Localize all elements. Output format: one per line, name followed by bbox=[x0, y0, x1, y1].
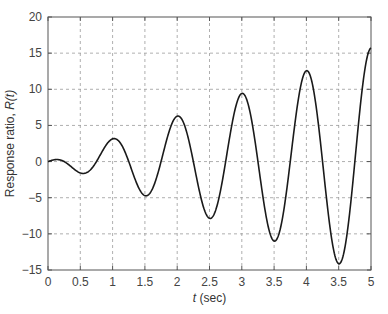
x-tick-label: 3.5 bbox=[330, 275, 347, 289]
x-tick-label: 5 bbox=[368, 275, 375, 289]
y-tick-label: 20 bbox=[29, 10, 43, 24]
response-ratio-chart: 00.511.522.533.543.55 −15−10−505101520 t… bbox=[0, 0, 388, 314]
x-tick-label: 0 bbox=[45, 275, 52, 289]
x-tick-label: 1 bbox=[109, 275, 116, 289]
y-tick-label: −15 bbox=[22, 263, 43, 277]
x-axis-label: t (sec) bbox=[193, 291, 226, 305]
x-tick-label: 4 bbox=[303, 275, 310, 289]
x-tick-label: 0.5 bbox=[72, 275, 89, 289]
y-tick-label: 10 bbox=[29, 82, 43, 96]
y-tick-label: 15 bbox=[29, 46, 43, 60]
x-tick-label: 2 bbox=[174, 275, 181, 289]
x-tick-label: 3.5 bbox=[266, 275, 283, 289]
x-tick-label: 2.5 bbox=[201, 275, 218, 289]
y-axis-label: Response ratio, R(t) bbox=[3, 90, 17, 197]
grid-lines bbox=[48, 17, 371, 270]
y-axis-ticks: −15−10−505101520 bbox=[22, 10, 371, 277]
x-tick-label: 1.5 bbox=[137, 275, 154, 289]
x-axis-ticks: 00.511.522.533.543.55 bbox=[45, 17, 375, 289]
y-tick-label: −5 bbox=[28, 191, 42, 205]
y-axis-label-var: R(t) bbox=[3, 90, 17, 110]
y-axis-label-text: Response ratio, bbox=[3, 110, 17, 197]
x-tick-label: 3 bbox=[238, 275, 245, 289]
y-tick-label: −10 bbox=[22, 227, 43, 241]
x-axis-label-unit: (sec) bbox=[196, 291, 226, 305]
y-tick-label: 0 bbox=[35, 155, 42, 169]
y-tick-label: 5 bbox=[35, 118, 42, 132]
